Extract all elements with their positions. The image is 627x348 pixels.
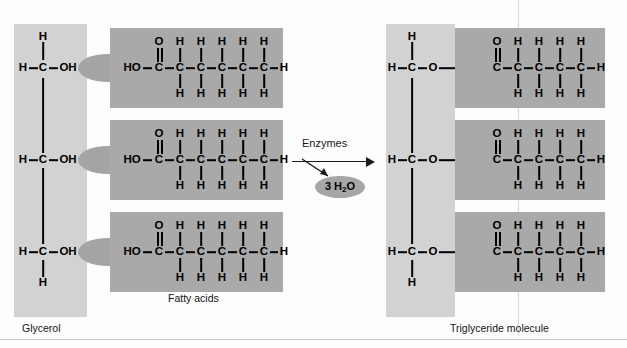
acyl-row3-c2: C <box>514 246 522 258</box>
fatty-acid-row3-lower-h-5: H <box>260 272 268 284</box>
glycerol-row2-hydroxyl: OH <box>59 154 76 166</box>
fatty-acid-row3-double-bond-b <box>161 232 163 246</box>
fatty-acid-row3-upper-h-3: H <box>218 220 226 232</box>
fatty-acid-row1-upper-h-2: H <box>197 36 205 48</box>
acyl-row2-c1: C <box>493 154 501 166</box>
acyl-row3-upper-h-4: H <box>577 220 585 232</box>
fatty-acid-row2-bond-5-6 <box>249 159 258 161</box>
acyl-row2-c5: C <box>577 154 585 166</box>
fatty-acid-row2-upper-h-4: H <box>239 128 247 140</box>
fatty-acid-row2-upper-bond-4 <box>242 140 244 154</box>
acyl-row3-double-bond-b <box>499 232 501 246</box>
acyl-row2-bond-2-3 <box>524 159 533 161</box>
acyl-row2-terminal-bond <box>587 159 595 161</box>
acyl-row1-terminal-bond <box>587 67 595 69</box>
fatty-acid-row2-c1: C <box>155 154 163 166</box>
fatty-acid-row3-c5: C <box>239 246 247 258</box>
acyl-row1-c4: C <box>556 62 564 74</box>
fatty-acid-row1-ho: HO <box>123 62 140 74</box>
fatty-acid-row2-lower-bond-3 <box>221 166 223 180</box>
fatty-acid-row2-terminal-bond <box>270 159 278 161</box>
fatty-acid-row2-lower-bond-1 <box>179 166 181 180</box>
triglyceride-row1-co-bond <box>418 67 427 69</box>
acyl-row1-upper-h-1: H <box>514 36 522 48</box>
acyl-row1-lower-bond-3 <box>559 74 561 88</box>
acyl-row2-double-bond-b <box>499 140 501 154</box>
acyl-row2-c2: C <box>514 154 522 166</box>
fatty-acid-row1-upper-h-5: H <box>260 36 268 48</box>
fatty-acid-row1-lower-h-4: H <box>239 88 247 100</box>
fatty-acid-row1-ho-bond <box>143 67 152 69</box>
fatty-acid-row2-upper-bond-1 <box>179 140 181 154</box>
acyl-row1-c1: C <box>493 62 501 74</box>
acyl-row3-upper-bond-1 <box>517 232 519 246</box>
acyl-row2-upper-h-1: H <box>514 128 522 140</box>
acyl-row2-c4: C <box>556 154 564 166</box>
triglyceride-row1-carbon: C <box>408 62 416 74</box>
water-byproduct-ellipse: 3 H2O <box>315 176 365 198</box>
fatty-acid-row3-upper-bond-2 <box>200 232 202 246</box>
fatty-acid-row3-bond-2-3 <box>186 251 195 253</box>
glycerol-row1-carbon: C <box>39 62 47 74</box>
fatty-acid-row2-lower-h-3: H <box>218 180 226 192</box>
fatty-acid-row1-upper-bond-1 <box>179 48 181 62</box>
acyl-row1-upper-bond-4 <box>580 48 582 62</box>
water-byproduct-label: 3 H2O <box>325 180 355 194</box>
fatty-acid-row2-upper-h-2: H <box>197 128 205 140</box>
fatty-acid-row2-upper-h-3: H <box>218 128 226 140</box>
acyl-row3-bond-3-4 <box>545 251 554 253</box>
fatty-acid-row3-ho-bond <box>143 251 152 253</box>
triglyceride-row2-carbon: C <box>408 154 416 166</box>
glycerol-row3-left-bond <box>29 251 38 253</box>
fatty-acid-row2-lower-bond-4 <box>242 166 244 180</box>
fatty-acid-row2-c4: C <box>218 154 226 166</box>
fatty-acid-row1-bond-3-4 <box>207 67 216 69</box>
fatty-acid-row2-c3: C <box>197 154 205 166</box>
acyl-row3-lower-bond-1 <box>517 258 519 272</box>
fatty-acid-row3-bond-4-5 <box>228 251 237 253</box>
fatty-acid-row3-bond-3-4 <box>207 251 216 253</box>
fatty-acid-row1-lower-h-2: H <box>197 88 205 100</box>
reaction-arrow-head <box>366 157 375 167</box>
fatty-acid-row3-upper-h-2: H <box>197 220 205 232</box>
glycerol-row1-top-h: H <box>39 31 47 43</box>
acyl-row1-c2: C <box>514 62 522 74</box>
acyl-row3-upper-h-2: H <box>535 220 543 232</box>
fatty-acid-row2-upper-h-5: H <box>260 128 268 140</box>
acyl-row2-upper-bond-2 <box>538 140 540 154</box>
fatty-acid-row1-lower-bond-1 <box>179 74 181 88</box>
fatty-acid-row3-lower-h-1: H <box>176 272 184 284</box>
fatty-acid-row1-bond-5-6 <box>249 67 258 69</box>
fatty-acid-row1-bond-1-2 <box>165 67 174 69</box>
glycerol-row3-carbon: C <box>39 246 47 258</box>
acyl-row3-lower-bond-2 <box>538 258 540 272</box>
acyl-row1-terminal-h: H <box>597 62 605 74</box>
acyl-row1-bond-1-2 <box>503 67 512 69</box>
fatty-acid-row3-c6: C <box>260 246 268 258</box>
fatty-acid-row1-c1: C <box>155 62 163 74</box>
acyl-row1-lower-bond-2 <box>538 74 540 88</box>
fatty-acid-row3-double-bond-a <box>157 232 159 246</box>
acyl-row1-carbonyl-o: O <box>493 36 502 48</box>
fatty-acid-row2-bond-1-2 <box>165 159 174 161</box>
glycerol-row2-left-h: H <box>19 154 27 166</box>
fatty-acid-row2-bond-3-4 <box>207 159 216 161</box>
acyl-row2-upper-bond-4 <box>580 140 582 154</box>
fatty-acid-row2-double-bond-b <box>161 140 163 154</box>
fatty-acid-row3-upper-bond-5 <box>263 232 265 246</box>
fatty-acid-row3-ho: HO <box>123 246 140 258</box>
fatty-acid-row3-upper-h-4: H <box>239 220 247 232</box>
acyl-row2-upper-h-4: H <box>577 128 585 140</box>
fatty-acid-row1-c5: C <box>239 62 247 74</box>
acyl-row2-lower-h-3: H <box>556 180 564 192</box>
fatty-acid-row3-upper-bond-1 <box>179 232 181 246</box>
acyl-row1-bond-3-4 <box>545 67 554 69</box>
glycerol-row3-bottom-h: H <box>39 277 47 289</box>
fatty-acid-row3-bond-5-6 <box>249 251 258 253</box>
glycerol-row2-carbon: C <box>39 154 47 166</box>
acyl-row3-lower-h-3: H <box>556 272 564 284</box>
fatty-acid-row3-upper-h-1: H <box>176 220 184 232</box>
fatty-acid-row2-c6: C <box>260 154 268 166</box>
triglyceride-row2-left-bond <box>398 159 407 161</box>
acyl-row1-double-bond-a <box>495 48 497 62</box>
